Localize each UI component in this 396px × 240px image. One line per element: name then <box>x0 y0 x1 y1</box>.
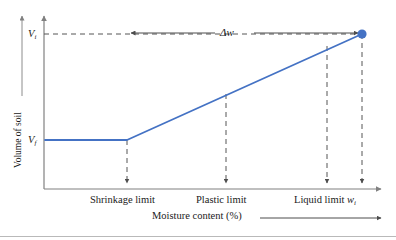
y-axis-label: Volume of soil <box>14 112 24 168</box>
shrinkage-limit-figure: Volume of soil Vi Vf Δw Shrinkage limit … <box>0 0 396 240</box>
y-tick-final-volume-subscript: f <box>34 139 36 147</box>
x-axis-label: Moisture content (%) <box>152 211 242 222</box>
x-marker-label-shrinkage-limit: Shrinkage limit <box>90 195 155 206</box>
volume-change-curve <box>45 34 362 140</box>
y-tick-final-volume: Vf <box>28 135 36 147</box>
x-marker-label-liquid-limit-subscript: i <box>354 199 356 207</box>
x-marker-label-plastic-limit: Plastic limit <box>196 195 246 206</box>
y-tick-initial-volume: Vi <box>28 29 36 41</box>
liquid-limit-point-marker <box>357 29 366 38</box>
y-tick-initial-volume-subscript: i <box>34 33 36 41</box>
delta-w-label: Δw <box>220 27 234 38</box>
x-marker-label-liquid-limit-text: Liquid limit <box>294 194 344 205</box>
figure-bottom-rule <box>0 236 396 237</box>
x-marker-label-liquid-limit: Liquid limit wi <box>294 195 356 207</box>
